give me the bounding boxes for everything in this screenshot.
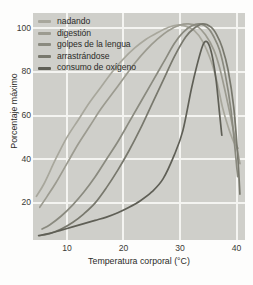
legend-swatch-golpes-de-la-lengua (38, 43, 51, 46)
legend-label-consumo-de-oxigeno: consumo de oxígeno (57, 62, 136, 74)
chart-figure: nadando digestión golpes de la lengua ar… (0, 0, 253, 285)
x-tick-10: 10 (52, 243, 82, 253)
legend-item-consumo-de-oxigeno[interactable]: consumo de oxígeno (38, 62, 168, 74)
legend-label-golpes-de-la-lengua: golpes de la lengua (57, 39, 131, 51)
y-axis-title: Porcentaje máximo (9, 46, 19, 176)
chart-legend: nadando digestión golpes de la lengua ar… (38, 16, 168, 74)
legend-item-digestion[interactable]: digestión (38, 28, 168, 40)
x-axis-title: Temperatura corporal (°C) (33, 256, 245, 266)
legend-label-nadando: nadando (57, 16, 90, 28)
legend-item-golpes-de-la-lengua[interactable]: golpes de la lengua (38, 39, 168, 51)
legend-label-arrastrandose: arrastrándose (57, 51, 109, 63)
x-tick-20: 20 (108, 243, 138, 253)
legend-item-arrastrandose[interactable]: arrastrándose (38, 51, 168, 63)
legend-label-digestion: digestión (57, 28, 91, 40)
legend-item-nadando[interactable]: nadando (38, 16, 168, 28)
legend-swatch-arrastrandose (38, 55, 51, 58)
legend-swatch-nadando (38, 20, 51, 23)
y-tick-20: 20 (3, 198, 31, 207)
y-tick-100: 100 (3, 24, 31, 33)
legend-swatch-digestion (38, 32, 51, 35)
x-tick-30: 30 (165, 243, 195, 253)
x-tick-40: 40 (222, 243, 252, 253)
legend-swatch-consumo-de-oxigeno (38, 67, 51, 70)
